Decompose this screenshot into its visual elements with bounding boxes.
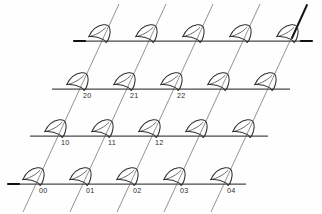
lattice-figure: 20 21 22 10 11 12 00 01 02 03 04 — [0, 0, 322, 214]
site-label: 22 — [177, 91, 185, 100]
site-label: 00 — [39, 186, 47, 195]
site-label: 10 — [61, 138, 69, 147]
lattice-diagram: 20 21 22 10 11 12 00 01 02 03 04 — [0, 0, 322, 214]
site-label: 12 — [155, 138, 163, 147]
site-label: 20 — [83, 91, 91, 100]
site-label: 21 — [130, 91, 138, 100]
site-label: 02 — [133, 186, 141, 195]
site-label: 04 — [227, 186, 235, 195]
site-label: 11 — [108, 138, 116, 147]
site-label: 03 — [180, 186, 188, 195]
figure-background — [0, 0, 322, 214]
site-label: 01 — [86, 186, 94, 195]
